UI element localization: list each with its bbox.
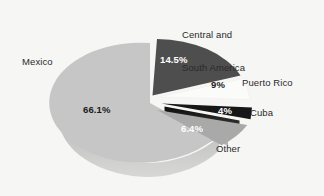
slice-value-mexico: 66.1% (83, 105, 110, 116)
pie-chart-figure: Central and South America Mexico Puerto … (0, 0, 324, 196)
slice-label-central-south-america-line1: Central and (182, 30, 245, 41)
slice-value-central-south-america: 14.5% (160, 55, 187, 66)
slice-value-puerto-rico: 9% (211, 80, 225, 91)
pie-chart-graphic (0, 0, 324, 196)
slice-value-other: 6.4% (181, 124, 203, 135)
slice-label-cuba: Cuba (250, 108, 273, 119)
slice-label-other: Other (216, 144, 240, 155)
slice-value-cuba: 4% (218, 106, 232, 117)
slice-label-puerto-rico: Puerto Rico (242, 78, 293, 89)
slice-label-mexico: Mexico (22, 57, 53, 68)
slice-label-central-south-america-line2: South America (182, 63, 245, 74)
